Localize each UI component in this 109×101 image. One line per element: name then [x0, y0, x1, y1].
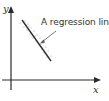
y-axis: [8, 6, 14, 90]
regression-line-annotation: A regression line: [41, 17, 109, 27]
pointer-arrow: [40, 31, 56, 44]
x-axis-label: x: [93, 84, 99, 95]
y-axis-label: y: [3, 3, 9, 14]
x-axis: [2, 77, 101, 83]
